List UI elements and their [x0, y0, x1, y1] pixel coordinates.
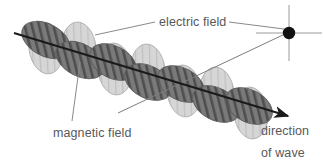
magnetic-field-label: magnetic field — [53, 126, 132, 140]
em-wave-diagram: electric field magnetic field direction … — [0, 0, 323, 165]
electric-field-label: electric field — [159, 15, 226, 29]
electric-field-leader-line — [95, 22, 155, 35]
wave-origin-dot — [283, 27, 295, 39]
electric-field-leader-right — [229, 22, 284, 29]
direction-label: direction — [261, 124, 309, 138]
of-wave-label: of wave — [261, 146, 305, 160]
crosshair-marker — [256, 5, 322, 61]
diagram-canvas: electric field magnetic field direction … — [0, 0, 323, 165]
